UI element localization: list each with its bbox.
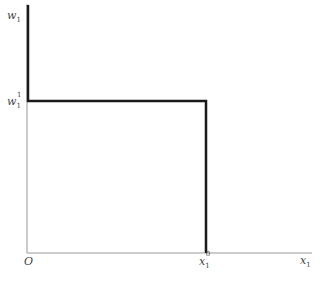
x-axis-label: x1 — [300, 255, 311, 269]
diagram-canvas — [0, 0, 325, 282]
x-tick-label: x10 — [199, 255, 214, 270]
step-curve — [28, 5, 206, 253]
origin-label: O — [24, 256, 33, 267]
y-tick-label: w11 — [7, 95, 25, 110]
y-axis-label: w1 — [7, 10, 21, 24]
